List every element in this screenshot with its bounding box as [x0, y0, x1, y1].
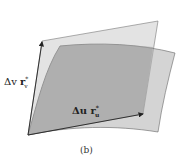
- diagram-canvas: [0, 0, 189, 161]
- surface-patch-figure: Δv r*v Δu r*u (b): [0, 0, 189, 161]
- v-vector-label: Δv r*v: [4, 75, 28, 89]
- figure-caption: (b): [80, 145, 93, 155]
- u-vector-label: Δu r*u: [72, 104, 99, 118]
